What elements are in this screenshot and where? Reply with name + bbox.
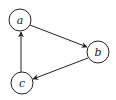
node-a-label: a	[17, 14, 24, 27]
edge-b-to-c	[33, 58, 88, 79]
node-a: a	[9, 9, 31, 31]
node-b: b	[87, 41, 109, 63]
node-b-label: b	[94, 46, 101, 59]
node-c-label: c	[19, 77, 25, 90]
graph-canvas: a b c	[0, 0, 116, 100]
edge-a-to-b	[30, 25, 87, 47]
node-c: c	[11, 72, 33, 94]
